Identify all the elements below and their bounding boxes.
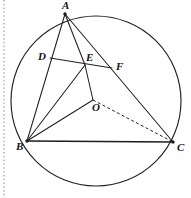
point-labels-group: ABCDEFO xyxy=(15,0,185,153)
vertex-dot-C xyxy=(171,140,174,143)
segment-OC xyxy=(93,100,173,142)
point-label-C: C xyxy=(177,141,185,153)
segment-EO xyxy=(85,65,93,100)
point-label-O: O xyxy=(92,101,100,113)
point-label-B: B xyxy=(15,140,23,152)
point-label-F: F xyxy=(115,60,124,72)
geometry-canvas: ABCDEFO xyxy=(0,0,191,198)
segments-group xyxy=(27,14,173,142)
point-label-D: D xyxy=(37,50,46,62)
point-label-A: A xyxy=(61,0,69,11)
vertex-dots-group xyxy=(25,12,174,143)
segment-DF xyxy=(50,58,112,68)
segment-BC xyxy=(27,141,173,142)
segment-AC xyxy=(65,14,173,142)
geometry-figure: ABCDEFO xyxy=(0,0,191,198)
point-label-E: E xyxy=(85,51,93,63)
vertex-dot-B xyxy=(25,139,28,142)
segment-AE xyxy=(65,14,85,65)
segment-BE xyxy=(27,65,85,141)
segment-AB xyxy=(27,14,65,141)
vertex-dot-A xyxy=(63,12,66,15)
